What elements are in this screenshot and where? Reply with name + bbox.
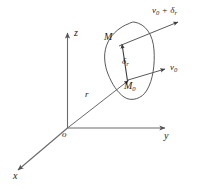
diagram-canvas [0,0,198,189]
position-vector-label: r [85,90,89,99]
point-m0-subscript: 0 [132,85,135,92]
position-vector-r [68,81,129,129]
delta-r-label: δr [122,57,129,66]
velocity-sum-v-subscript: 0 [156,9,159,16]
velocity-v0-label: v0 [170,63,177,72]
velocity-v0-plus-delta-label: v0+δr [152,6,177,15]
x-axis [18,128,68,170]
velocity-v0-plus-delta-vector [119,22,178,46]
velocity-sum-delta-base: δ [170,5,174,15]
origin-label: o [62,130,67,139]
delta-r-subscript: r [126,60,129,67]
velocity-v0-vector [128,69,165,80]
point-m-label: M [104,32,112,42]
x-axis-label: x [13,171,17,181]
velocity-v0-subscript: 0 [174,66,177,73]
velocity-sum-operator: + [159,5,170,15]
vector-field-diagram: z y x o r M M0 δr v0 v0+δr [0,0,198,189]
y-axis-label: y [164,131,168,141]
point-m0-label: M0 [124,81,136,91]
z-axis-label: z [74,28,78,38]
velocity-sum-delta-subscript: r [175,9,178,16]
